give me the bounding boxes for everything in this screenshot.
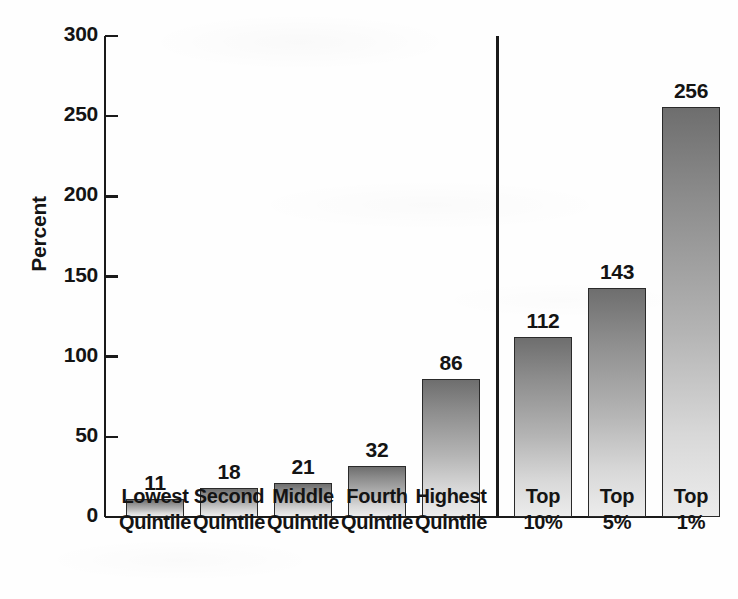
x-category-line-1: Fourth xyxy=(346,485,408,507)
x-category-label: Top1% xyxy=(648,483,734,536)
bar-chart: Percent 050100150200250300 1118213286112… xyxy=(0,0,738,599)
x-category-line-1: Second xyxy=(194,485,264,507)
x-category-line-1: Lowest xyxy=(121,485,188,507)
x-category-line-1: Middle xyxy=(272,485,334,507)
x-category-line-2: 1% xyxy=(648,509,734,535)
x-category-line-1: Top xyxy=(526,485,560,507)
x-category-label: HighestQuintile xyxy=(408,483,494,536)
x-category-line-1: Top xyxy=(600,485,634,507)
x-category-line-1: Top xyxy=(674,485,708,507)
x-category-line-1: Highest xyxy=(415,485,486,507)
x-axis-category-labels: LowestQuintileSecondQuintileMiddleQuinti… xyxy=(105,0,701,599)
x-category-line-2: Quintile xyxy=(408,509,494,535)
